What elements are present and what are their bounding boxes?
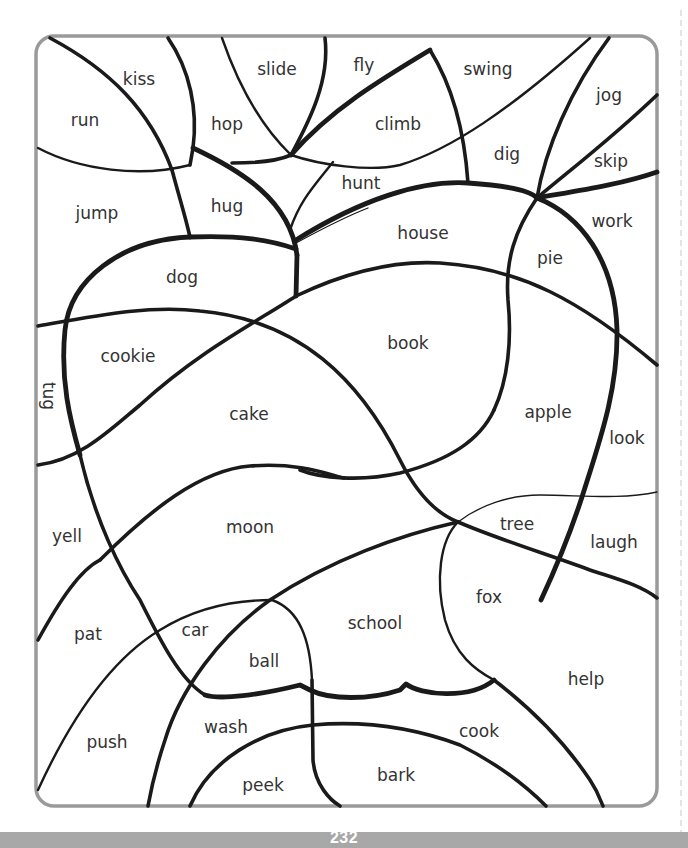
page-number: 232 [0,829,688,847]
region-word-jump: jump [75,203,119,223]
region-word-tug: tug [39,382,59,410]
region-word-hop: hop [211,114,243,134]
region-word-help: help [568,669,605,689]
region-word-apple: apple [524,402,571,422]
worksheet-page: kissslideflyswingjogrunhopclimbdigskiphu… [0,0,688,848]
region-word-car: car [182,620,209,640]
region-word-look: look [609,428,645,448]
region-word-book: book [387,333,429,353]
region-word-climb: climb [375,114,421,134]
region-word-slide: slide [257,59,297,79]
region-word-kiss: kiss [123,69,155,89]
region-word-house: house [397,223,448,243]
region-word-jog: jog [595,85,622,105]
region-word-hunt: hunt [342,173,381,193]
region-word-wash: wash [204,717,248,737]
region-word-ball: ball [249,651,280,671]
region-word-dog: dog [166,267,198,287]
region-word-skip: skip [594,151,628,171]
region-word-swing: swing [463,59,512,79]
region-word-pie: pie [537,248,563,268]
region-word-push: push [86,732,127,752]
region-word-fox: fox [476,587,502,607]
region-word-tree: tree [500,514,534,534]
region-word-school: school [348,613,403,633]
region-word-hug: hug [211,196,243,216]
region-word-fly: fly [354,55,375,75]
region-word-dig: dig [494,144,520,164]
region-word-cook: cook [459,721,499,741]
color-by-word-puzzle: kissslideflyswingjogrunhopclimbdigskiphu… [0,0,688,848]
region-word-cookie: cookie [100,346,155,366]
region-word-pat: pat [74,624,102,644]
region-word-bark: bark [377,765,415,785]
region-word-work: work [591,211,632,231]
region-word-cake: cake [229,404,268,424]
region-word-run: run [71,110,100,130]
page-footer-bar: 232 [0,832,688,848]
region-word-moon: moon [226,517,274,537]
region-word-peek: peek [242,775,284,795]
region-word-laugh: laugh [590,532,637,552]
region-word-yell: yell [52,526,82,546]
